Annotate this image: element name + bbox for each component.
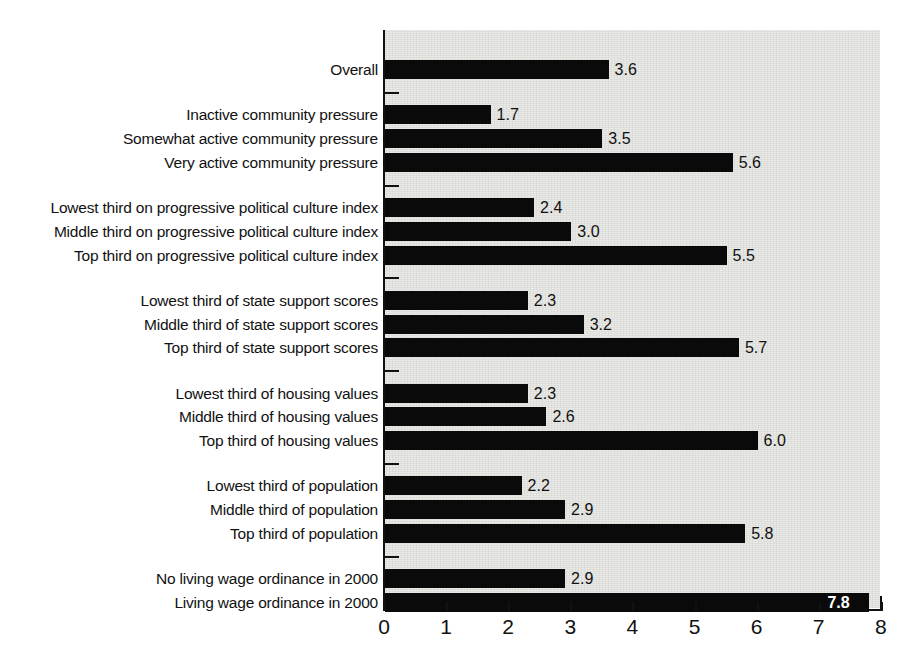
- bar: [385, 222, 571, 241]
- bar-row: Overall3.6: [0, 60, 908, 79]
- x-axis-tick: [819, 602, 821, 611]
- bar-value-label: 5.5: [733, 246, 755, 265]
- bar: [385, 431, 758, 450]
- bar: [385, 593, 869, 612]
- bar-value-label: 3.5: [608, 129, 630, 148]
- x-axis-tick-label: 3: [550, 615, 590, 639]
- bar: [385, 129, 602, 148]
- bar-value-label: 7.8: [827, 593, 849, 612]
- bar-row-label: No living wage ordinance in 2000: [156, 569, 378, 588]
- bar: [385, 153, 733, 172]
- bar: [385, 246, 727, 265]
- bar-row: Lowest third of population2.2: [0, 476, 908, 495]
- bar-row: Top third of housing values6.0: [0, 431, 908, 450]
- x-axis-tick: [508, 602, 510, 611]
- x-axis-tick-label: 1: [426, 615, 466, 639]
- bar-value-label: 3.2: [590, 315, 612, 334]
- x-axis-tick: [384, 602, 386, 611]
- bar-row-label: Living wage ordinance in 2000: [174, 593, 378, 612]
- bar-value-label: 2.9: [571, 569, 593, 588]
- bar-row-label: Top third of state support scores: [164, 338, 378, 357]
- bar-row-label: Lowest third on progressive political cu…: [50, 198, 378, 217]
- bar: [385, 476, 522, 495]
- bar-row: Living wage ordinance in 20007.8: [0, 593, 908, 612]
- bar-row-label: Inactive community pressure: [186, 105, 378, 124]
- bar-value-label: 2.6: [552, 407, 574, 426]
- bar-row: Lowest third of housing values2.3: [0, 384, 908, 403]
- bar-row: Lowest third on progressive political cu…: [0, 198, 908, 217]
- x-axis-tick-label: 7: [799, 615, 839, 639]
- bar-value-label: 3.0: [577, 222, 599, 241]
- bar-row: No living wage ordinance in 20002.9: [0, 569, 908, 588]
- bar-row: Very active community pressure5.6: [0, 153, 908, 172]
- x-axis-tick: [757, 602, 759, 611]
- bar: [385, 105, 491, 124]
- bar-row-label: Top third on progressive political cultu…: [74, 246, 378, 265]
- bar-value-label: 3.6: [615, 60, 637, 79]
- x-axis-tick-label: 8: [861, 615, 901, 639]
- bar: [385, 407, 546, 426]
- bar-value-label: 5.7: [745, 338, 767, 357]
- bar-row-label: Top third of population: [230, 524, 378, 543]
- bar: [385, 291, 528, 310]
- bar-value-label: 2.2: [528, 476, 550, 495]
- bar-value-label: 1.7: [497, 105, 519, 124]
- group-separator-tick: [385, 92, 399, 94]
- group-separator-tick: [385, 556, 399, 558]
- bar-row-label: Middle third of housing values: [179, 407, 378, 426]
- bar: [385, 500, 565, 519]
- group-separator-tick: [385, 277, 399, 279]
- bar-value-label: 5.8: [751, 524, 773, 543]
- bar-row-label: Middle third of population: [210, 500, 378, 519]
- group-separator-tick: [385, 463, 399, 465]
- bar-row: Middle third on progressive political cu…: [0, 222, 908, 241]
- bar-row-label: Overall: [330, 60, 378, 79]
- bar-row-label: Middle third of state support scores: [144, 315, 378, 334]
- bar-row-label: Lowest third of state support scores: [141, 291, 378, 310]
- bar-row: Middle third of state support scores3.2: [0, 315, 908, 334]
- group-separator-tick: [385, 370, 399, 372]
- bar-row: Inactive community pressure1.7: [0, 105, 908, 124]
- x-axis-tick: [632, 602, 634, 611]
- bar: [385, 198, 534, 217]
- group-separator-tick: [385, 185, 399, 187]
- bar: [385, 384, 528, 403]
- bar-value-label: 2.3: [534, 291, 556, 310]
- x-axis-tick-label: 2: [488, 615, 528, 639]
- x-axis-tick-label: 0: [364, 615, 404, 639]
- bar: [385, 60, 609, 79]
- bar-value-label: 2.9: [571, 500, 593, 519]
- bar-row: Top third of state support scores5.7: [0, 338, 908, 357]
- bar-row-label: Top third of housing values: [199, 431, 378, 450]
- bar: [385, 315, 584, 334]
- bar-row-label: Lowest third of housing values: [175, 384, 378, 403]
- x-axis-tick-label: 4: [612, 615, 652, 639]
- bar-value-label: 2.4: [540, 198, 562, 217]
- bar-row: Top third of population5.8: [0, 524, 908, 543]
- bar-row-label: Middle third on progressive political cu…: [54, 222, 378, 241]
- x-axis-tick: [570, 602, 572, 611]
- bar-chart: Overall3.6Inactive community pressure1.7…: [0, 0, 908, 666]
- x-axis-tick: [695, 602, 697, 611]
- bar-row: Lowest third of state support scores2.3: [0, 291, 908, 310]
- bar-row-label: Somewhat active community pressure: [123, 129, 378, 148]
- bar-row: Middle third of population2.9: [0, 500, 908, 519]
- x-axis-tick-label: 6: [737, 615, 777, 639]
- x-axis-tick-label: 5: [675, 615, 715, 639]
- bar: [385, 338, 739, 357]
- bar-value-label: 6.0: [764, 431, 786, 450]
- bar: [385, 569, 565, 588]
- bar-value-label: 2.3: [534, 384, 556, 403]
- bar-row-label: Lowest third of population: [207, 476, 378, 495]
- bar-row: Somewhat active community pressure3.5: [0, 129, 908, 148]
- bar-value-label: 5.6: [739, 153, 761, 172]
- bar: [385, 524, 745, 543]
- x-axis-tick: [881, 602, 883, 611]
- bar-row: Middle third of housing values2.6: [0, 407, 908, 426]
- x-axis-tick: [446, 602, 448, 611]
- bar-row-label: Very active community pressure: [164, 153, 378, 172]
- bar-row: Top third on progressive political cultu…: [0, 246, 908, 265]
